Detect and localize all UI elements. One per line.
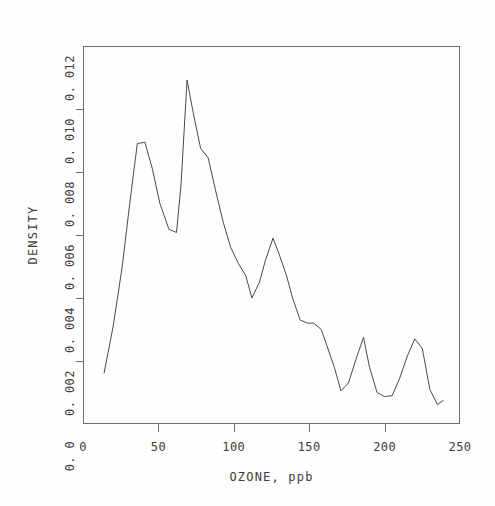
density-line-series xyxy=(104,80,443,404)
x-tick-mark xyxy=(234,424,235,432)
x-tick-label: 200 xyxy=(373,440,396,454)
y-tick-label: 0. 004 xyxy=(63,298,77,362)
y-axis-title: DENSITY xyxy=(26,190,40,280)
x-tick-label: 150 xyxy=(298,440,321,454)
density-curve-svg xyxy=(83,46,460,424)
x-tick-mark xyxy=(385,424,386,432)
x-tick-label: 250 xyxy=(449,440,472,454)
y-tick-label: 0. 012 xyxy=(63,46,77,110)
x-tick-label: 0 xyxy=(79,440,87,454)
y-tick-mark xyxy=(76,109,84,110)
y-tick-label: 0. 0 xyxy=(63,424,77,488)
x-tick-label: 50 xyxy=(151,440,166,454)
y-tick-mark xyxy=(76,361,84,362)
y-tick-mark xyxy=(76,172,84,173)
y-tick-label: 0. 002 xyxy=(63,361,77,425)
x-tick-label: 100 xyxy=(222,440,245,454)
y-tick-mark xyxy=(76,235,84,236)
x-tick-mark xyxy=(309,424,310,432)
y-tick-mark xyxy=(76,298,84,299)
y-tick-label: 0. 010 xyxy=(63,109,77,173)
y-tick-label: 0. 006 xyxy=(63,235,77,299)
y-tick-label: 0. 008 xyxy=(63,172,77,236)
figure-canvas: 0. 00. 0020. 0040. 0060. 0080. 0100. 012… xyxy=(0,0,495,506)
x-tick-mark xyxy=(158,424,159,432)
x-axis-title: OZONE, ppb xyxy=(83,470,460,484)
